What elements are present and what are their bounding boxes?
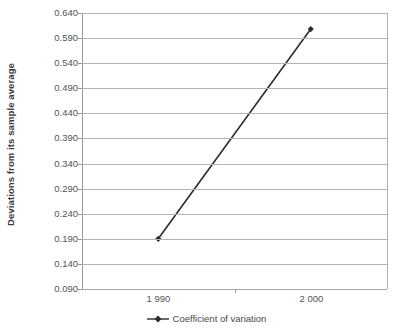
gridline — [82, 138, 387, 139]
y-axis-tick-label: 0.640 — [36, 8, 78, 18]
x-axis-tick-label: 2 000 — [300, 292, 324, 306]
gridline — [82, 38, 387, 39]
gridline — [82, 113, 387, 114]
y-axis-tick-label: 0.290 — [36, 184, 78, 194]
y-axis-tick-mark — [78, 138, 82, 139]
series-layer — [82, 13, 387, 289]
y-axis-tick-label: 0.390 — [36, 134, 78, 144]
y-axis-tick-mark — [78, 214, 82, 215]
series-line — [158, 29, 311, 239]
y-axis-tick-label: 0.340 — [36, 159, 78, 169]
y-axis-tick-mark — [78, 38, 82, 39]
y-axis-tick-label: 0.240 — [36, 209, 78, 219]
y-axis-tick-mark — [78, 113, 82, 114]
y-axis-tick-mark — [78, 164, 82, 165]
gridline — [82, 164, 387, 165]
gridline — [82, 239, 387, 240]
plot-area — [82, 13, 388, 289]
y-axis-tick-mark — [78, 63, 82, 64]
y-axis-tick-mark — [78, 239, 82, 240]
x-axis-tick-labels: 1 9902 000 — [82, 292, 388, 308]
y-axis-tick-mark — [78, 88, 82, 89]
y-axis-tick-mark — [78, 289, 82, 290]
diamond-marker-icon — [147, 315, 169, 323]
y-axis-tick-label: 0.490 — [36, 84, 78, 94]
chart-container: Deviations from its sample average 0.090… — [0, 0, 413, 334]
chart-legend: Coefficient of variation — [0, 314, 413, 324]
x-axis-tick-label: 1 990 — [147, 292, 171, 306]
y-axis-tick-label: 0.540 — [36, 58, 78, 68]
y-axis-tick-label: 0.590 — [36, 33, 78, 43]
y-axis-tick-label: 0.190 — [36, 234, 78, 244]
gridline — [82, 88, 387, 89]
y-axis-tick-label: 0.440 — [36, 109, 78, 119]
gridline — [82, 13, 387, 14]
gridline — [82, 264, 387, 265]
y-axis-tick-labels: 0.0900.1400.1900.2400.2900.3400.3900.440… — [36, 13, 78, 289]
y-axis-tick-label: 0.090 — [36, 284, 78, 294]
gridline — [82, 189, 387, 190]
y-axis-tick-mark — [78, 13, 82, 14]
legend-label: Coefficient of variation — [173, 314, 267, 324]
y-axis-title: Deviations from its sample average — [2, 0, 18, 289]
legend-item[interactable]: Coefficient of variation — [147, 314, 267, 324]
gridline — [82, 63, 387, 64]
gridline — [82, 214, 387, 215]
y-axis-tick-mark — [78, 189, 82, 190]
y-axis-tick-mark — [78, 264, 82, 265]
y-axis-tick-label: 0.140 — [36, 259, 78, 269]
